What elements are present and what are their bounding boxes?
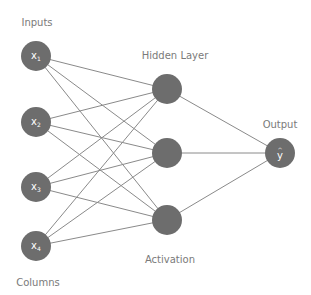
edge-input-3-hidden-3 [36, 187, 167, 220]
edge-input-3-hidden-2 [36, 153, 167, 187]
inputs-caption: Inputs [21, 17, 52, 28]
hidden-node-1 [152, 74, 182, 104]
edge-input-2-hidden-3 [36, 122, 167, 220]
neural-network-diagram: x1x2x3x4^y Inputs Columns Hidden Layer A… [0, 0, 311, 295]
hidden-node-2 [152, 138, 182, 168]
input-node-subscript: 2 [37, 121, 41, 128]
output-node-label: y [277, 150, 283, 161]
activation-caption: Activation [145, 254, 195, 265]
output-caption: Output [263, 119, 298, 130]
input-node-subscript: 1 [37, 55, 41, 62]
edge-input-4-hidden-3 [36, 220, 167, 246]
input-node-subscript: 4 [37, 245, 41, 252]
hidden-layer-caption: Hidden Layer [142, 50, 209, 61]
columns-caption: Columns [16, 277, 60, 288]
input-node-subscript: 3 [37, 186, 41, 193]
edge-hidden-3-output [167, 153, 280, 220]
diagram-svg: x1x2x3x4^y Inputs Columns Hidden Layer A… [0, 0, 311, 295]
hidden-node-3 [152, 205, 182, 235]
edge-input-2-hidden-1 [36, 89, 167, 122]
